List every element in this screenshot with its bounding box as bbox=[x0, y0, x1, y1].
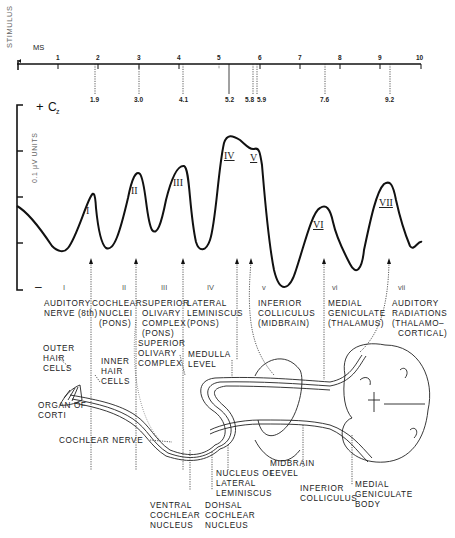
peak-vii: VII bbox=[379, 197, 393, 208]
label-line: GENICULATE bbox=[355, 490, 413, 499]
label-line: (PONS) bbox=[142, 329, 174, 338]
label-ventral-cochlear-nucleus: VENTRAL bbox=[150, 501, 192, 510]
label-line: COLLICULUS bbox=[258, 309, 315, 318]
label-medial-geniculate-body: MEDIAL bbox=[355, 480, 389, 489]
label-line: HAIR bbox=[43, 354, 65, 363]
label-line: CELLS bbox=[43, 364, 72, 373]
tick-10: 10 bbox=[416, 54, 424, 61]
wave-numeral-vi: vi bbox=[332, 283, 338, 292]
label-inferior-colliculus: INFERIOR bbox=[300, 484, 344, 493]
label-line: BODY bbox=[355, 500, 381, 509]
label-line: LATERAL bbox=[187, 299, 227, 308]
label-line: (THALAMO– bbox=[392, 319, 444, 328]
label-line: INFERIOR bbox=[258, 299, 302, 308]
label-line: (PONS) bbox=[99, 319, 131, 328]
auditory-brainstem-response-diagram: STIMULUS MS 1 2 3 4 5 6 7 8 9 10 1.9 3.0… bbox=[0, 0, 455, 538]
polarity-plus: + bbox=[36, 99, 44, 114]
latency-9-2: 9.2 bbox=[385, 96, 394, 103]
peak-i: I bbox=[86, 205, 89, 216]
label-cochlear-nerve: COCHLEAR NERVE bbox=[59, 436, 143, 445]
label-line: COLLICULUS bbox=[300, 494, 357, 503]
latency-1-9: 1.9 bbox=[90, 96, 99, 103]
wave-numeral-vii: vii bbox=[398, 283, 405, 292]
label-line: CELLS bbox=[101, 377, 130, 386]
label-outer-hair-cells: OUTER bbox=[43, 344, 75, 353]
minus-label: – bbox=[35, 280, 42, 294]
label-line: LATERAL bbox=[216, 479, 256, 488]
label-auditory-radiations: AUDITORY RADIATIONS (THALAMO– CORTICAL) bbox=[392, 299, 447, 338]
wave-numeral-v: v bbox=[262, 283, 266, 292]
label-auditory-nerve: AUDITORY NERVE (8th) bbox=[44, 299, 98, 318]
wave-numerals-lower: I II III IV v vi vii bbox=[63, 283, 405, 292]
ms-label: MS bbox=[33, 43, 44, 52]
latency-5-9: 5.9 bbox=[257, 96, 266, 103]
tick-4: 4 bbox=[177, 54, 181, 61]
tick-5: 5 bbox=[217, 54, 221, 61]
latency-7-6: 7.6 bbox=[320, 96, 329, 103]
label-line: (PONS) bbox=[187, 319, 219, 328]
wave-numeral-iii: III bbox=[161, 283, 167, 292]
label-line: GENICULATE bbox=[328, 309, 386, 318]
label-line: NUCLEUS bbox=[205, 521, 248, 530]
label-inner-hair-cells: INNER bbox=[101, 357, 129, 366]
polarity-sub: z bbox=[56, 108, 60, 115]
wave-numeral-ii: II bbox=[122, 283, 126, 292]
label-line: MEDIAL bbox=[328, 299, 362, 308]
label-line: OLIVARY bbox=[142, 309, 181, 318]
label-superior-olivary-complex: SUPERIOR bbox=[138, 339, 186, 348]
wave-numeral-iv: IV bbox=[207, 283, 214, 292]
latency-3-0: 3.0 bbox=[134, 96, 143, 103]
abr-waveform bbox=[17, 136, 422, 287]
peak-iv: IV bbox=[224, 150, 235, 161]
label-line: (THALAMUS) bbox=[328, 319, 384, 328]
latency-5-2: 5.2 bbox=[225, 96, 234, 103]
label-line: AUDITORY bbox=[392, 299, 439, 308]
label-line: HAIR bbox=[101, 367, 123, 376]
tick-1: 1 bbox=[56, 54, 60, 61]
label-line: (MIDBRAIN) bbox=[258, 319, 309, 328]
anatomy-labels: OUTER HAIR CELLS INNER HAIR CELLS ORGAN … bbox=[38, 339, 413, 530]
stimulus-label: STIMULUS bbox=[5, 5, 14, 48]
label-line: LEMINISCUS bbox=[216, 489, 272, 498]
label-organ-of-corti: ORGAN OF bbox=[38, 401, 86, 410]
label-line: NERVE (8th) bbox=[44, 309, 98, 318]
tick-7: 7 bbox=[298, 54, 302, 61]
tick-9: 9 bbox=[378, 54, 382, 61]
tick-2: 2 bbox=[96, 54, 100, 61]
label-line: CORTICAL) bbox=[398, 329, 447, 338]
label-inferior-colliculus: INFERIOR COLLICULUS (MIDBRAIN) bbox=[258, 299, 315, 328]
peak-labels: I II III IV V VI VII bbox=[86, 150, 393, 230]
label-line: NUCLEUS bbox=[150, 521, 193, 530]
generator-labels: AUDITORY NERVE (8th) COCHLEAR NUCLEI (PO… bbox=[44, 299, 447, 338]
label-line: NUCLEI bbox=[99, 309, 133, 318]
cerebral-cortex bbox=[342, 344, 430, 462]
label-line: COCHLEAR bbox=[150, 511, 200, 520]
wave-numeral-i: I bbox=[63, 283, 65, 292]
label-line: LEMINISCUS bbox=[187, 309, 243, 318]
label-line: AUDITORY bbox=[44, 299, 91, 308]
label-line: COCHLEAR bbox=[92, 299, 142, 308]
tick-8: 8 bbox=[338, 54, 342, 61]
units-label: 0.1 μV UNITS bbox=[31, 132, 39, 183]
label-line: RADIATIONS bbox=[392, 309, 447, 318]
integer-ticks: 1 2 3 4 5 6 7 8 9 10 bbox=[56, 54, 424, 69]
tick-3: 3 bbox=[137, 54, 141, 61]
label-line: COMPLEX bbox=[142, 319, 186, 328]
label-cochlear-nuclei: COCHLEAR NUCLEI (PONS) bbox=[92, 299, 142, 328]
label-line: COMPLEX bbox=[138, 359, 182, 368]
label-dorsal-cochlear-nucleus: DOHSAL bbox=[205, 501, 242, 510]
label-line: OLIVARY bbox=[138, 349, 177, 358]
amplitude-axis: + C z 0.1 μV UNITS – bbox=[17, 99, 60, 294]
label-medulla-level: MEDULLA bbox=[188, 350, 231, 359]
peak-vi: VI bbox=[313, 219, 324, 230]
label-line: SUPERIOR bbox=[142, 299, 190, 308]
label-line: CORTI bbox=[38, 411, 66, 420]
latency-5-8: 5.8 bbox=[245, 96, 254, 103]
time-axis: STIMULUS MS 1 2 3 4 5 6 7 8 9 10 1.9 3.0… bbox=[5, 5, 424, 103]
label-lateral-leminiscus: LATERAL LEMINISCUS (PONS) bbox=[187, 299, 243, 328]
label-midbrain-level: MIDBRAIN bbox=[270, 459, 315, 468]
peak-iii: III bbox=[173, 177, 183, 188]
latency-markers: 1.9 3.0 4.1 5.2 5.8 5.9 7.6 9.2 bbox=[90, 64, 394, 103]
label-nucleus-lateral-leminiscus: NUCLEUS OF bbox=[216, 469, 275, 478]
peak-v: V bbox=[250, 152, 258, 163]
